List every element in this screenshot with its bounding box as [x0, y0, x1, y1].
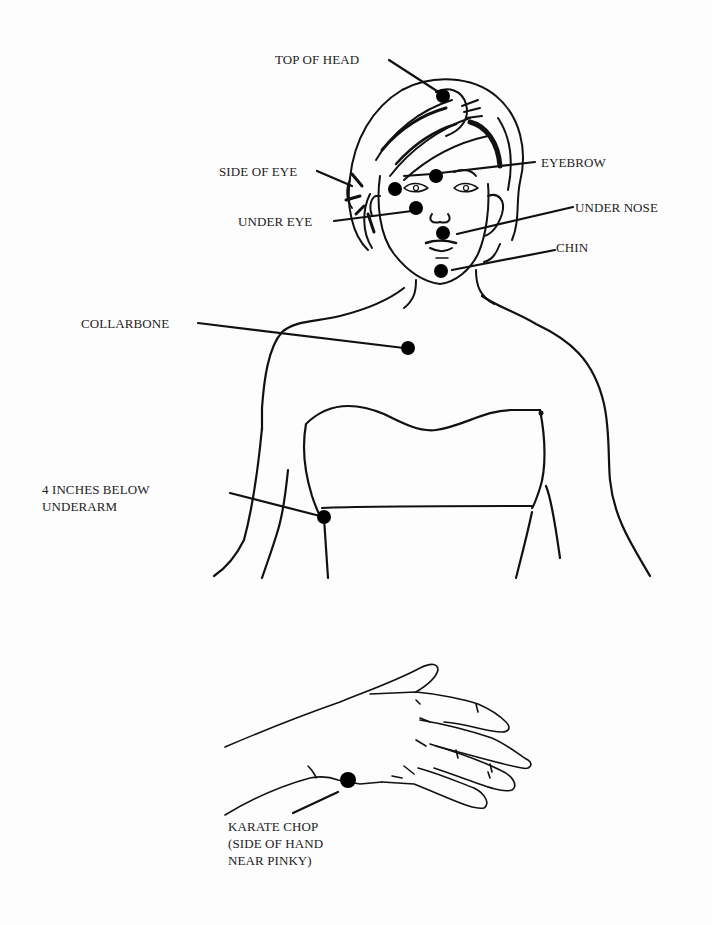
label-collarbone: COLLARBONE	[81, 315, 169, 332]
label-under-arm: 4 INCHES BELOW UNDERARM	[42, 481, 150, 515]
label-side-of-eye: SIDE OF EYE	[219, 163, 297, 180]
dot-karate-chop	[340, 772, 356, 788]
dot-collarbone	[401, 341, 415, 355]
dot-under-eye	[409, 201, 423, 215]
hand-drawing	[225, 664, 531, 815]
dot-under-nose	[436, 226, 450, 240]
label-under-arm-line1: 4 INCHES BELOW	[42, 481, 150, 498]
torso-drawing	[214, 288, 650, 578]
label-karate-chop-line3: NEAR PINKY)	[228, 852, 323, 869]
head-drawing	[346, 79, 523, 308]
label-top-of-head: TOP OF HEAD	[275, 51, 359, 68]
label-eyebrow: EYEBROW	[541, 154, 606, 171]
label-under-eye: UNDER EYE	[238, 213, 312, 230]
dot-eyebrow	[429, 169, 443, 183]
label-karate-chop-line1: KARATE CHOP	[228, 818, 323, 835]
label-karate-chop-line2: (SIDE OF HAND	[228, 835, 323, 852]
tapping-points-illustration	[0, 0, 712, 925]
dot-chin	[434, 264, 448, 278]
dot-side-of-eye	[388, 182, 402, 196]
label-chin: CHIN	[556, 239, 588, 256]
tapping-point-dots	[317, 89, 450, 788]
dot-top-of-head	[436, 89, 450, 103]
dot-under-arm	[317, 510, 331, 524]
label-under-arm-line2: UNDERARM	[42, 498, 150, 515]
label-under-nose: UNDER NOSE	[575, 199, 658, 216]
label-karate-chop: KARATE CHOP (SIDE OF HAND NEAR PINKY)	[228, 818, 323, 869]
